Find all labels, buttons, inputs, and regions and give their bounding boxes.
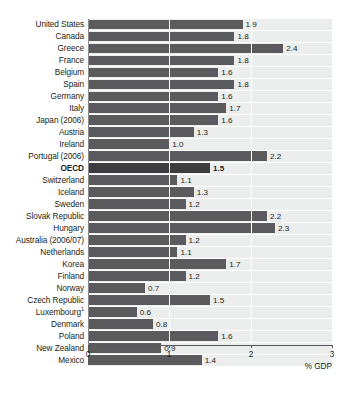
bar	[88, 307, 137, 317]
x-axis-line	[88, 345, 332, 346]
category-label: Japan (2006)	[0, 115, 84, 126]
bar-value-label: 2.2	[270, 211, 281, 222]
category-label: Slovak Republic	[0, 211, 84, 222]
bar	[88, 163, 210, 173]
category-label: Greece	[0, 43, 84, 54]
bar	[88, 175, 177, 185]
bar	[88, 115, 218, 125]
chart-row: Ireland1.0	[0, 139, 351, 150]
bar	[88, 139, 169, 149]
chart-row: Luxembourg10.6	[0, 307, 351, 318]
chart-row: Slovak Republic2.2	[0, 211, 351, 222]
chart-row: Spain1.8	[0, 79, 351, 90]
bar-value-label: 0.6	[140, 307, 151, 318]
chart-row: Italy1.7	[0, 103, 351, 114]
chart-row: United States1.9	[0, 19, 351, 30]
bar-value-label: 1.8	[237, 31, 248, 42]
category-label: Luxembourg1	[0, 307, 84, 318]
bar-value-label: 1.6	[221, 67, 232, 78]
chart-row: Korea1.7	[0, 259, 351, 270]
bar-value-label: 1.2	[189, 235, 200, 246]
chart-row: Belgium1.6	[0, 67, 351, 78]
category-label: Portugal (2006)	[0, 151, 84, 162]
chart-row: Finland1.2	[0, 271, 351, 282]
bar	[88, 127, 194, 137]
category-label: Austria	[0, 127, 84, 138]
bar	[88, 103, 226, 113]
bar-value-label: 1.3	[197, 127, 208, 138]
bar	[88, 259, 226, 269]
chart-row: Sweden1.2	[0, 199, 351, 210]
bar	[88, 92, 218, 102]
category-label: Australia (2006/07)	[0, 235, 84, 246]
category-label: Canada	[0, 31, 84, 42]
bar-value-label: 1.9	[246, 19, 257, 30]
chart-row: Norway0.7	[0, 283, 351, 294]
bar-value-label: 0.7	[148, 283, 159, 294]
category-label: Mexico	[0, 355, 84, 366]
chart-rows: United States1.9Canada1.8Greece2.4France…	[0, 19, 351, 345]
bar	[88, 295, 210, 305]
category-label: Sweden	[0, 199, 84, 210]
bar-value-label: 1.6	[221, 331, 232, 342]
bar-value-label: 1.3	[197, 187, 208, 198]
tick-mark	[169, 345, 170, 348]
tick-mark	[251, 345, 252, 348]
chart-row: OECD1.5	[0, 163, 351, 174]
bar-value-label: 1.1	[180, 175, 191, 186]
chart-row: Greece2.4	[0, 43, 351, 54]
bar	[88, 355, 202, 365]
bar-value-label: 2.4	[286, 43, 297, 54]
chart-row: Denmark0.8	[0, 319, 351, 330]
category-label: OECD	[0, 163, 84, 174]
bar-value-label: 2.3	[278, 223, 289, 234]
chart-row: Poland1.6	[0, 331, 351, 342]
x-axis-tick-label: 3	[322, 349, 342, 359]
bar	[88, 44, 283, 54]
bar	[88, 68, 218, 78]
bar	[88, 223, 275, 233]
category-label: Czech Republic	[0, 295, 84, 306]
bar-value-label: 1.4	[205, 355, 216, 366]
x-axis-unit-label: % GDP	[305, 362, 332, 371]
chart-row: Portugal (2006)2.2	[0, 151, 351, 162]
chart-row: France1.8	[0, 55, 351, 66]
chart-row: Japan (2006)1.6	[0, 115, 351, 126]
x-axis-tick-label: 2	[241, 349, 261, 359]
category-label: Denmark	[0, 319, 84, 330]
category-label: Norway	[0, 283, 84, 294]
chart-row: Canada1.8	[0, 31, 351, 42]
bar-value-label: 1.7	[229, 259, 240, 270]
bar	[88, 271, 186, 281]
bar	[88, 319, 153, 329]
bar-value-label: 1.6	[221, 91, 232, 102]
bar-value-label: 1.2	[189, 271, 200, 282]
x-axis-tick-label: 1	[159, 349, 179, 359]
category-label: Germany	[0, 91, 84, 102]
bar	[88, 80, 234, 90]
bar-value-label: 1.0	[172, 139, 183, 150]
category-label: Korea	[0, 259, 84, 270]
chart-row: Hungary2.3	[0, 223, 351, 234]
bar-chart: United States1.9Canada1.8Greece2.4France…	[0, 0, 351, 395]
bar-value-label: 1.8	[237, 79, 248, 90]
chart-row: Netherlands1.1	[0, 247, 351, 258]
category-label: Spain	[0, 79, 84, 90]
category-label: United States	[0, 19, 84, 30]
bar	[88, 151, 267, 161]
bar-value-label: 1.5	[213, 295, 224, 306]
bar	[88, 187, 194, 197]
bar-value-label: 1.8	[237, 55, 248, 66]
tick-mark	[332, 345, 333, 348]
category-label: Belgium	[0, 67, 84, 78]
tick-mark	[88, 345, 89, 348]
bar-value-label: 1.7	[229, 103, 240, 114]
bar	[88, 331, 218, 341]
bar	[88, 235, 186, 245]
bar-value-label: 1.6	[221, 115, 232, 126]
category-label: Italy	[0, 103, 84, 114]
chart-row: Austria1.3	[0, 127, 351, 138]
bar-value-label: 2.2	[270, 151, 281, 162]
bar	[88, 56, 234, 66]
category-label: France	[0, 55, 84, 66]
